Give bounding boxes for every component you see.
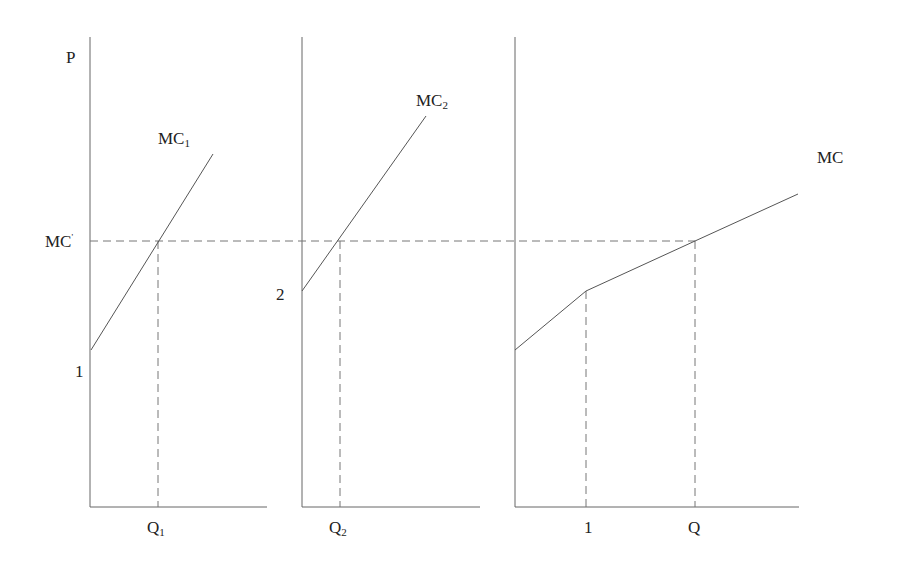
q2-label-sub: 2 [341,526,347,538]
mc-aggregate-label: MC [817,149,843,166]
diagram-svg [0,0,899,569]
q1-label-sub: 1 [159,526,165,538]
panel-2-axes [302,37,480,507]
mc2-curve [302,116,426,291]
q2-label: Q2 [329,519,347,538]
panel-1-axes [90,37,267,507]
panel-3-axes [515,37,799,507]
mc1-curve [91,154,213,350]
mc1-label: MC1 [158,130,190,149]
q1-label-main: Q [147,518,159,537]
price-level-label: MC' [45,233,73,250]
kink-quantity-label: 1 [584,519,593,536]
price-level-label-sup: ' [71,232,73,242]
price-level-label-main: MC [45,232,71,251]
mc2-label-main: MC [416,91,442,110]
mc1-label-main: MC [158,129,184,148]
y-axis-label-p: P [66,49,75,66]
mc2-intercept-label: 2 [276,286,285,303]
mc1-label-sub: 1 [184,137,190,149]
q1-label: Q1 [147,519,165,538]
mc-diagram: P MC1 MC' 1 Q1 MC2 2 Q2 MC 1 Q [0,0,899,569]
q-label: Q [688,519,700,536]
mc1-intercept-label: 1 [75,363,84,380]
q2-label-main: Q [329,518,341,537]
mc2-label: MC2 [416,92,448,111]
mc2-label-sub: 2 [442,99,448,111]
mc-aggregate-curve [515,194,798,350]
